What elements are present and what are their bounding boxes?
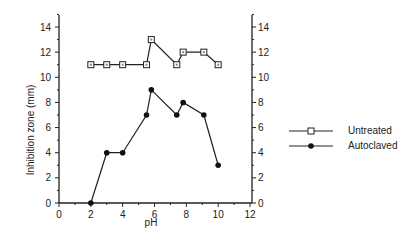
axes: 0022446688101012121414024681012 (40, 14, 270, 220)
y-tick-label-left: 12 (40, 47, 52, 58)
x-tick-label: 0 (56, 209, 62, 220)
x-tick-label: 2 (88, 209, 94, 220)
x-tick-label: 10 (213, 209, 225, 220)
y-tick-label-left: 6 (45, 122, 51, 133)
y-tick-label-right: 2 (258, 172, 264, 183)
data-point (120, 150, 126, 156)
data-point (215, 162, 221, 168)
x-tick-label: 4 (120, 209, 126, 220)
series-untreated (88, 37, 221, 68)
data-series (88, 37, 221, 206)
filled-dot-marker-icon (308, 143, 314, 149)
x-tick-label: 8 (184, 209, 190, 220)
y-tick-label-left: 2 (45, 172, 51, 183)
y-tick-label-left: 4 (45, 147, 51, 158)
data-point (201, 112, 207, 118)
y-tick-label-left: 0 (45, 198, 51, 209)
y-tick-label-right: 4 (258, 147, 264, 158)
data-point (104, 150, 110, 156)
legend-item-autoclaved: Autoclaved (289, 140, 397, 151)
y-tick-label-left: 10 (40, 72, 52, 83)
open-square-marker-icon (308, 128, 314, 134)
y-tick-label-left: 8 (45, 97, 51, 108)
legend: Untreated Autoclaved (289, 125, 397, 151)
y-tick-label-right: 12 (258, 47, 270, 58)
legend-label-untreated: Untreated (348, 125, 392, 136)
chart-area: 0022446688101012121414024681012 pH Inhib… (0, 0, 419, 240)
data-point (88, 200, 94, 206)
y-axis-title: Inhibition zone (mm) (25, 85, 36, 176)
data-point (180, 100, 186, 106)
x-tick-label: 12 (244, 209, 256, 220)
legend-item-untreated: Untreated (289, 125, 392, 136)
y-tick-label-left: 14 (40, 22, 52, 33)
legend-label-autoclaved: Autoclaved (348, 140, 397, 151)
y-tick-label-right: 14 (258, 22, 270, 33)
y-tick-label-right: 8 (258, 97, 264, 108)
y-tick-label-right: 10 (258, 72, 270, 83)
y-tick-label-right: 0 (258, 198, 264, 209)
data-point (144, 112, 150, 118)
y-tick-label-right: 6 (258, 122, 264, 133)
x-axis-title: pH (145, 217, 158, 228)
data-point (174, 112, 180, 118)
data-point (149, 87, 155, 93)
series-autoclaved (88, 87, 221, 206)
